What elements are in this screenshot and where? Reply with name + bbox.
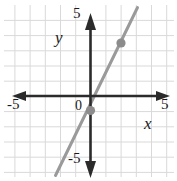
x-axis-max-tick-label: 5 (161, 97, 169, 112)
y-intercept-point (86, 106, 95, 115)
x-axis-name-label: x (144, 115, 152, 132)
origin-label: 0 (75, 99, 82, 113)
y-axis-up-arrow (85, 13, 96, 30)
grid-lines (4, 5, 174, 177)
axes (21, 26, 161, 168)
coordinate-graph-figure: 5 -5 5 0 -5 y x (0, 0, 177, 181)
graph-canvas (0, 0, 177, 181)
y-axis-name-label: y (55, 29, 63, 46)
y-axis-min-tick-label: -5 (68, 151, 81, 166)
y-axis-max-tick-label: 5 (73, 6, 81, 21)
x-axis-min-tick-label: -5 (7, 97, 20, 112)
y-axis-down-arrow (85, 161, 96, 178)
line-point (116, 38, 125, 47)
